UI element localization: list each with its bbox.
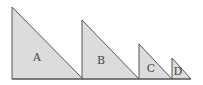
triangle-a-label: A bbox=[32, 51, 42, 64]
triangle-b-label: B bbox=[97, 54, 105, 67]
triangle-a bbox=[12, 7, 83, 79]
triangle-c bbox=[139, 44, 172, 79]
triangles-diagram: A B C D bbox=[0, 0, 203, 85]
triangle-b bbox=[82, 20, 139, 79]
triangle-c-label: C bbox=[147, 62, 155, 75]
triangle-d-label: D bbox=[174, 65, 183, 78]
